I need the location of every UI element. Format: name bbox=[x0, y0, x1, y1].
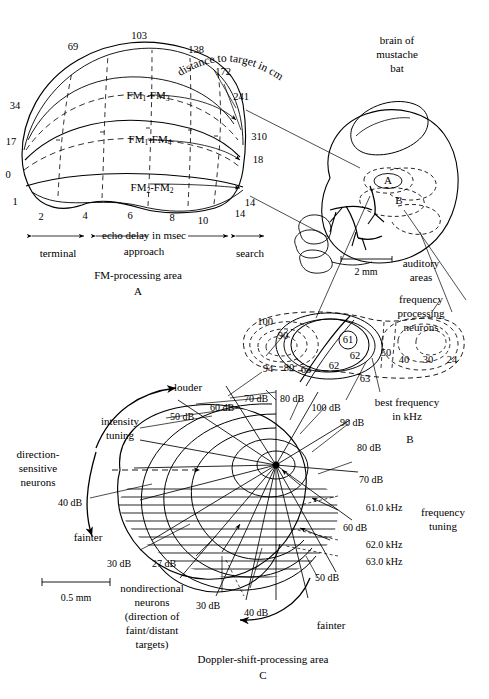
panel-b-best-freq-63-right: 63 bbox=[360, 373, 371, 384]
panel-a-band-fm2-fm2: FM2-FM2 bbox=[131, 182, 174, 195]
panel-a-distance-18: 18 bbox=[253, 154, 264, 165]
panel-c-louder-label: louder bbox=[174, 382, 202, 394]
panel-a-delay-6: 6 bbox=[127, 210, 132, 221]
nondirectional-line5: targets) bbox=[136, 639, 169, 651]
panel-a-distance-34: 34 bbox=[10, 100, 21, 111]
panel-c-caption: Doppler-shift-processing area bbox=[198, 654, 329, 666]
panel-a-letter: A bbox=[134, 286, 142, 298]
panel-b-best-freq-63-left: 63 bbox=[301, 364, 312, 375]
panel-b-contour-90: 90 bbox=[278, 330, 289, 341]
panel-b-best-freq-24: 24 bbox=[447, 354, 458, 365]
panel-c-fainter-left: fainter bbox=[74, 532, 103, 544]
panel-a-delay-2: 2 bbox=[38, 211, 43, 222]
panel-c-db-60-right: 60 dB bbox=[343, 523, 367, 534]
nondirectional-line4: faint/distant bbox=[126, 625, 179, 637]
panel-c-db-50-lower: 50 dB bbox=[315, 573, 339, 584]
panel-a-region-terminal: terminal bbox=[40, 248, 77, 260]
panel-a-distance-14: 14 bbox=[245, 197, 256, 208]
panel-c-db-70-upper: 70 dB bbox=[244, 394, 268, 405]
panel-c-fainter-right: fainter bbox=[317, 620, 346, 632]
panel-c-db-50-upper: 50 dB bbox=[170, 412, 194, 423]
brain-label-line2: mustache bbox=[376, 49, 418, 61]
panel-c-db-30-left: 30 dB bbox=[107, 559, 131, 570]
intensity-tuning-line2: tuning bbox=[106, 430, 134, 442]
panel-c-letter: C bbox=[259, 670, 266, 682]
best-frequency-line2: in kHz bbox=[392, 411, 422, 423]
nondirectional-line1: nondirectional bbox=[120, 583, 184, 595]
panel-b-contour-94: 94 bbox=[263, 363, 274, 374]
brain-label-line3: bat bbox=[390, 63, 403, 75]
direction-sensitive-line3: neurons bbox=[21, 477, 56, 489]
panel-c-db-80-right: 80 dB bbox=[357, 443, 381, 454]
frequency-tuning-line1: frequency bbox=[421, 507, 465, 519]
freq-neurons-line3: neurons bbox=[404, 322, 439, 334]
panel-c-db-40-lower: 40 dB bbox=[244, 608, 268, 619]
panel-c-db-100: 100 dB bbox=[311, 403, 340, 414]
panel-c-db-30-lower: 30 dB bbox=[196, 601, 220, 612]
panel-c-db-60-upper: 60 dB bbox=[210, 403, 234, 414]
freq-neurons-line1: frequency bbox=[399, 294, 443, 306]
brain-region-marker-a: A bbox=[384, 175, 392, 187]
panel-c-khz-63: 63.0 kHz bbox=[366, 557, 403, 568]
panel-c-khz-61: 61.0 kHz bbox=[366, 503, 403, 514]
panel-c-db-90: 90 dB bbox=[340, 418, 364, 429]
brain-region-marker-b: B bbox=[395, 195, 402, 207]
frequency-tuning-line2: tuning bbox=[429, 521, 457, 533]
panel-a-band-fm1-fm4: FM1-FM4 bbox=[129, 134, 172, 147]
panel-a-band-fm1-fm3: FM1-FM3 bbox=[127, 90, 170, 103]
panel-c-scale-bar-label: 0.5 mm bbox=[61, 593, 92, 604]
panel-a-distance-138: 138 bbox=[188, 44, 204, 55]
panel-b-best-freq-62-left: 62 bbox=[329, 360, 340, 371]
panel-c-khz-62: 62.0 kHz bbox=[366, 540, 403, 551]
direction-sensitive-line2: sensitive bbox=[19, 463, 58, 475]
nondirectional-line3: (direction of bbox=[125, 611, 180, 623]
panel-b-best-freq-40: 40 bbox=[399, 354, 410, 365]
brain-label-line1: brain of bbox=[380, 35, 415, 47]
best-frequency-line1: best frequency bbox=[375, 397, 439, 409]
panel-a-delay-1: 1 bbox=[12, 196, 17, 207]
nondirectional-line2: neurons bbox=[135, 597, 170, 609]
panel-a-distance-69: 69 bbox=[68, 41, 79, 52]
panel-c-db-27: 27 dB bbox=[152, 559, 176, 570]
panel-b-contour-80: 80 bbox=[284, 362, 295, 373]
panel-a-delay-8: 8 bbox=[169, 212, 174, 223]
panel-a-region-search: search bbox=[236, 248, 264, 260]
panel-a-region-approach: approach bbox=[124, 246, 164, 258]
panel-b-best-freq-50: 50 bbox=[381, 347, 392, 358]
panel-a-delay-14: 14 bbox=[235, 208, 246, 219]
panel-a-delay-4: 4 bbox=[82, 210, 87, 221]
panel-a-delay-10: 10 bbox=[198, 215, 209, 226]
panel-c-db-40-left: 40 dB bbox=[58, 498, 82, 509]
panel-b-contour-100: 100 bbox=[257, 316, 273, 327]
panel-a-distance-241: 241 bbox=[233, 91, 249, 102]
panel-a-axis-title: echo delay in msec bbox=[102, 230, 186, 242]
freq-neurons-line2: processing bbox=[397, 308, 444, 320]
panel-b-letter: B bbox=[406, 434, 413, 446]
direction-sensitive-line1: direction- bbox=[17, 449, 60, 461]
panel-a-caption: FM-processing area bbox=[94, 270, 182, 282]
brain-scale-bar-label: 2 mm bbox=[354, 267, 377, 278]
intensity-tuning-line1: intensity bbox=[101, 416, 139, 428]
panel-a-distance-0: 0 bbox=[5, 169, 10, 180]
panel-a-distance-17: 17 bbox=[6, 136, 17, 147]
panel-b-best-freq-62-right: 62 bbox=[350, 350, 361, 361]
panel-a-distance-103: 103 bbox=[131, 30, 147, 41]
panel-c-db-70-right: 70 dB bbox=[359, 475, 383, 486]
panel-a-distance-172: 172 bbox=[215, 66, 231, 77]
panel-a-distance-310: 310 bbox=[251, 131, 267, 142]
panel-b-best-freq-61-circled: 61 bbox=[343, 334, 354, 345]
panel-c-map bbox=[42, 386, 358, 620]
panel-b-brain bbox=[295, 101, 466, 318]
auditory-areas-line2: areas bbox=[410, 272, 433, 284]
panel-b-best-freq-30: 30 bbox=[423, 354, 434, 365]
panel-a-map bbox=[22, 42, 360, 238]
auditory-areas-line1: auditory bbox=[403, 258, 440, 270]
panel-c-db-80-upper: 80 dB bbox=[280, 394, 304, 405]
